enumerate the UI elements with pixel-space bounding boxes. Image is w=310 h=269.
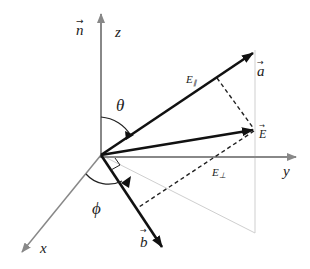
vector-b-arrow-icon: → [140,226,147,235]
x-axis-label: x [39,240,47,256]
theta-label: θ [116,96,124,115]
y-axis-label: y [281,163,290,179]
parallel-component-dashed [217,78,254,129]
vector-a-arrow-icon: → [257,58,264,67]
perpendicular-component-dashed [139,131,254,207]
perpendicular-component-label: E⊥ [211,166,226,180]
z-axis-label: z [114,24,121,40]
phi-label: ϕ [92,199,101,218]
parallel-component-label: E∥ [185,73,197,87]
guide-projection-line [101,155,255,233]
n-arrow-icon: → [76,16,84,26]
x-axis [22,155,101,252]
vector-E [101,130,253,155]
vector-b [101,155,162,247]
vector-b-label: b [140,234,148,250]
polarization-diagram: n → z y x θ ϕ a → E → b → E∥ E⊥ [0,0,310,269]
vector-E-arrow-icon: → [259,122,265,130]
